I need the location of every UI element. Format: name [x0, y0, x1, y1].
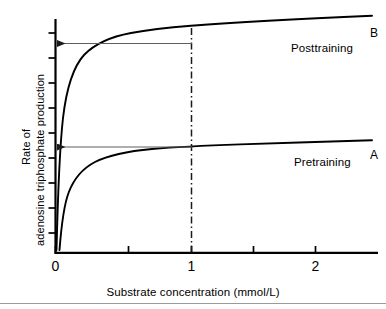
bottom-divider — [0, 303, 386, 304]
axis-lines — [55, 19, 379, 254]
x-tick-label-0: 0 — [43, 258, 68, 274]
x-tick-label-1: 1 — [179, 258, 204, 274]
curve-label-posttraining: Posttraining — [291, 42, 353, 54]
curve-label-pretraining: Pretraining — [294, 156, 351, 168]
curve-letter-b: B — [370, 26, 378, 40]
x-tick-label-2: 2 — [303, 258, 328, 274]
figure-container: Rate of adenosine triphosphate productio… — [0, 0, 386, 309]
curve-letter-a: A — [370, 148, 378, 162]
x-axis-title: Substrate concentration (mmol/L) — [0, 286, 386, 298]
